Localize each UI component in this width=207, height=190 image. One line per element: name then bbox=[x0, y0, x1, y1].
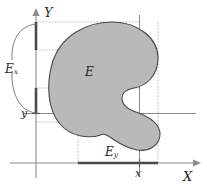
y-projection-label-sub: y bbox=[114, 150, 118, 159]
diagram-svg bbox=[0, 0, 207, 190]
y-projection-label-base: E bbox=[105, 145, 114, 159]
x-tick-label: x bbox=[135, 168, 141, 179]
x-axis-label: X bbox=[183, 170, 192, 183]
x-projection-label: Ex bbox=[5, 63, 18, 76]
x-projection-label-sub: x bbox=[14, 67, 18, 76]
y-axis-label: Y bbox=[44, 6, 53, 19]
figure-canvas: Y X E Ex Ey y x bbox=[0, 0, 207, 190]
y-axis-arrowhead bbox=[32, 8, 39, 16]
region-E-shape bbox=[49, 22, 160, 150]
y-projection-label: Ey bbox=[105, 146, 118, 159]
region-label: E bbox=[85, 66, 94, 78]
brace-arc-upper bbox=[12, 24, 36, 60]
y-tick-label: y bbox=[21, 108, 27, 119]
x-projection-label-base: E bbox=[5, 62, 14, 76]
x-axis-arrowhead bbox=[193, 159, 201, 166]
